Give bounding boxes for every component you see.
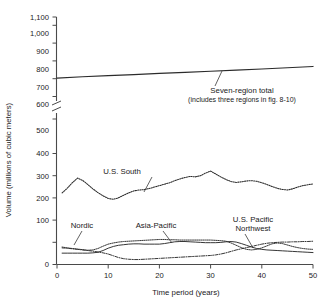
y-tick-label-0: 0 (45, 260, 49, 269)
y-tick-label-1100: 1,100 (30, 13, 49, 22)
y-tick-label-700: 700 (36, 83, 49, 92)
x-tick-label-20: 20 (155, 271, 163, 280)
x-tick-label-50: 50 (309, 271, 317, 280)
nordic-label: Nordic (71, 221, 94, 230)
us-south-label: U.S. South (103, 167, 141, 176)
series-line-us-south (62, 171, 313, 199)
axis-break-marks (52, 101, 61, 111)
x-axis-ticks (57, 265, 313, 269)
us-pacific-northwest-label-line1: U.S. Pacific (233, 215, 273, 224)
y-tick-label-900: 900 (36, 47, 49, 56)
us-pacific-northwest-label-line2: Northwest (235, 224, 271, 233)
y-axis-title: Volume (millions of cubic meters) (4, 102, 13, 217)
y-tick-label-1000: 1,000 (30, 29, 49, 38)
x-tick-label-0: 0 (55, 271, 59, 280)
y-tick-label-400: 400 (36, 149, 49, 158)
y-tick-label-100: 100 (36, 216, 49, 225)
y-axis-ticks (53, 17, 57, 265)
x-tick-label-40: 40 (258, 271, 266, 280)
series-line-seven-region-total (57, 66, 313, 78)
y-tick-label-300: 300 (36, 172, 49, 181)
seven-region-total-sublabel: (includes three regions in fig. 8-10) (188, 96, 296, 104)
x-tick-label-30: 30 (206, 271, 214, 280)
x-axis-title: Time period (years) (152, 288, 220, 297)
y-tick-label-800: 800 (36, 65, 49, 74)
figure-container: 1,100 1,000 900 800 700 600 500 400 300 … (0, 0, 324, 304)
seven-region-total-label: Seven-region total (210, 86, 274, 95)
series-line-nordic (62, 239, 313, 250)
asia-pacific-label: Asia-Pacific (136, 221, 177, 230)
y-tick-label-600: 600 (36, 100, 49, 109)
y-tick-label-500: 500 (36, 126, 49, 135)
x-tick-label-10: 10 (104, 271, 112, 280)
annotation-us-south: U.S. South (103, 167, 152, 192)
annotation-nordic: Nordic (71, 221, 94, 245)
line-chart: 1,100 1,000 900 800 700 600 500 400 300 … (0, 0, 324, 304)
y-tick-label-200: 200 (36, 194, 49, 203)
annotation-seven-region-total: Seven-region total (includes three regio… (188, 71, 296, 104)
